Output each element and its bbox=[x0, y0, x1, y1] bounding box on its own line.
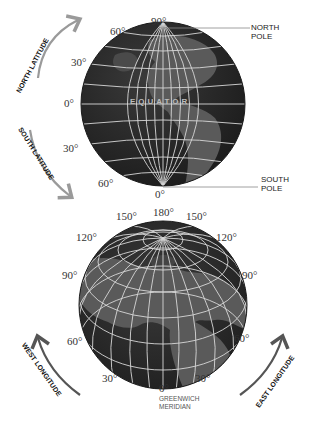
greenwich-meridian-label: GREENWICH MERIDIAN bbox=[159, 395, 199, 411]
latitude-label-south-pole-0: 0° bbox=[155, 189, 165, 200]
latitude-label-60-north: 60° bbox=[110, 26, 125, 37]
latitude-label-30-north: 30° bbox=[71, 57, 86, 68]
longitude-label-120-east: 120° bbox=[216, 232, 237, 243]
longitude-label-60-west: 60° bbox=[67, 336, 82, 347]
longitude-label-120-west: 120° bbox=[76, 232, 97, 243]
longitude-label-30-east: 30° bbox=[195, 373, 210, 384]
longitude-label-150-east: 150° bbox=[186, 211, 207, 222]
longitude-label-0: 0° bbox=[159, 383, 169, 394]
longitude-label-90-east: 90° bbox=[242, 270, 257, 281]
bottom-globe bbox=[77, 221, 249, 392]
latitude-label-30-south: 30° bbox=[63, 143, 78, 154]
longitude-label-60-east: 60° bbox=[234, 333, 249, 344]
south-latitude-arrow bbox=[30, 130, 70, 196]
latitude-label-equator: 0° bbox=[64, 98, 74, 109]
latitude-label-90-north: 90° bbox=[151, 16, 166, 27]
latitude-label-60-south: 60° bbox=[98, 178, 113, 189]
longitude-label-180: 180° bbox=[153, 207, 174, 218]
equator-label: EQUATOR bbox=[130, 97, 190, 106]
longitude-label-150-west: 150° bbox=[116, 211, 137, 222]
north-pole-label: NORTH POLE bbox=[251, 24, 279, 42]
south-pole-label: SOUTH POLE bbox=[261, 176, 289, 194]
longitude-label-30-west: 30° bbox=[102, 373, 117, 384]
longitude-label-90-west: 90° bbox=[62, 270, 77, 281]
